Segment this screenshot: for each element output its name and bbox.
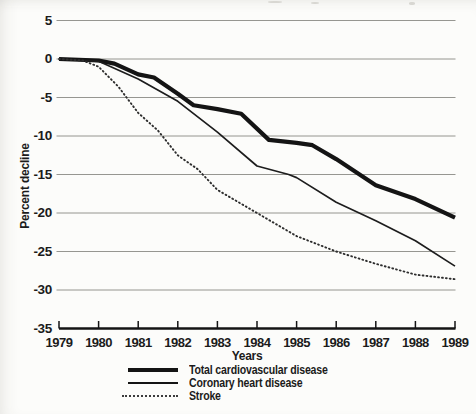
y-axis-title: Percent decline — [18, 143, 32, 229]
series-line-dotted — [59, 59, 455, 279]
x-tick-label: 1983 — [195, 336, 239, 350]
y-tick-label: -5 — [0, 90, 52, 106]
x-tick-label: 1984 — [235, 336, 279, 350]
legend-item: Total cardiovascular disease — [122, 363, 347, 376]
chart-figure: 50-5-10-15-20-25-30-35 19791980198119821… — [0, 0, 476, 414]
legend-line-swatch-thick-solid — [128, 368, 178, 372]
x-tick-label: 1982 — [156, 336, 200, 350]
y-tick-label: -35 — [0, 321, 52, 337]
legend-label: Stroke — [189, 389, 221, 403]
y-tick-label: 0 — [0, 51, 52, 67]
y-tick-label: -10 — [0, 128, 52, 144]
legend-item: Stroke — [122, 389, 347, 402]
x-tick-label: 1980 — [77, 336, 121, 350]
legend-item: Coronary heart disease — [122, 376, 347, 389]
y-tick-label: 5 — [0, 13, 52, 29]
legend-line-swatch-dotted — [122, 395, 178, 397]
x-tick-label: 1981 — [116, 336, 160, 350]
y-tick-label: -30 — [0, 282, 52, 298]
legend-label: Total cardiovascular disease — [189, 363, 328, 377]
series-line-thick-solid — [59, 59, 455, 218]
legend-line-swatch-thin-solid — [128, 382, 178, 384]
x-tick-label: 1986 — [314, 336, 358, 350]
x-tick-label: 1988 — [393, 336, 437, 350]
series-line-thin-solid — [59, 59, 455, 266]
x-tick-label: 1979 — [37, 336, 81, 350]
x-tick-label: 1985 — [275, 336, 319, 350]
x-tick-label: 1989 — [433, 336, 476, 350]
y-tick-label: -25 — [0, 244, 52, 260]
legend-label: Coronary heart disease — [189, 376, 303, 390]
chart-legend: Total cardiovascular diseaseCoronary hea… — [122, 363, 347, 402]
x-tick-label: 1987 — [354, 336, 398, 350]
x-axis-title: Years — [225, 349, 269, 363]
